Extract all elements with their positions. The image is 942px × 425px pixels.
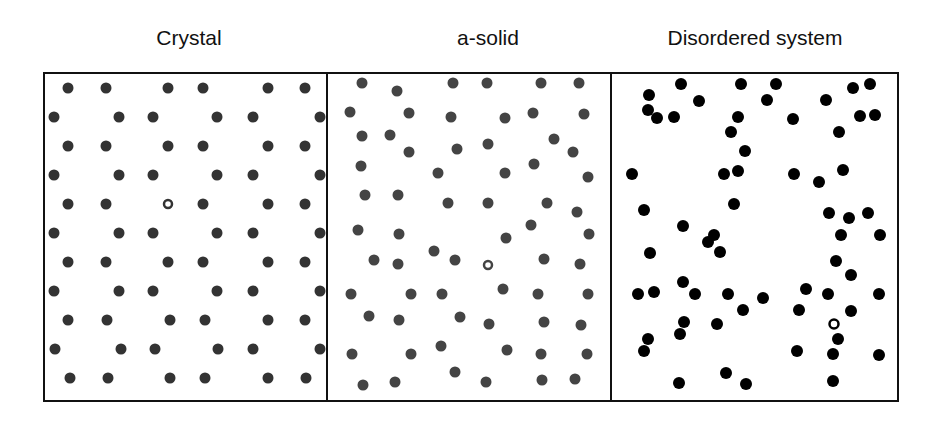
atom-dot bbox=[728, 198, 740, 210]
atom-dot bbox=[148, 170, 159, 181]
atom-dot bbox=[248, 344, 259, 355]
atom-dot bbox=[502, 345, 513, 356]
atom-dot bbox=[248, 228, 259, 239]
atom-dot bbox=[198, 83, 209, 94]
atom-dot bbox=[539, 254, 550, 265]
atom-dot bbox=[484, 319, 495, 330]
atom-dot bbox=[212, 228, 223, 239]
atom-dot bbox=[163, 141, 174, 152]
atom-dot bbox=[539, 317, 550, 328]
atom-dot bbox=[385, 130, 396, 141]
atom-dot bbox=[735, 78, 747, 90]
atom-dot bbox=[528, 108, 539, 119]
atom-dot bbox=[642, 333, 654, 345]
atom-dot bbox=[263, 83, 274, 94]
atom-dot bbox=[572, 207, 583, 218]
atom-dot bbox=[200, 315, 211, 326]
atom-dot bbox=[406, 289, 417, 300]
atom-dot bbox=[843, 212, 855, 224]
atom-dot bbox=[49, 228, 60, 239]
atom-dot bbox=[574, 78, 585, 89]
atom-dot bbox=[720, 367, 732, 379]
atom-dot bbox=[101, 83, 112, 94]
atom-dot bbox=[346, 289, 357, 300]
atom-dot bbox=[212, 170, 223, 181]
atom-dot bbox=[827, 348, 839, 360]
atom-dot bbox=[579, 109, 590, 120]
atom-dot bbox=[800, 283, 812, 295]
atom-dot bbox=[450, 255, 461, 266]
atom-dot bbox=[757, 292, 769, 304]
atom-dot bbox=[357, 131, 368, 142]
atom-dot bbox=[356, 161, 367, 172]
atom-dot bbox=[393, 259, 404, 270]
atom-dot bbox=[644, 247, 656, 259]
atom-dot bbox=[300, 141, 311, 152]
atom-dot bbox=[483, 139, 494, 150]
atom-dot bbox=[642, 104, 654, 116]
atom-dot bbox=[358, 380, 369, 391]
atom-dot bbox=[873, 349, 885, 361]
atom-dot bbox=[575, 259, 586, 270]
atom-dot bbox=[576, 320, 587, 331]
atom-dot bbox=[345, 107, 356, 118]
atom-dot bbox=[500, 168, 511, 179]
atom-dot bbox=[429, 246, 440, 257]
atom-dot bbox=[450, 367, 461, 378]
atom-dot bbox=[711, 318, 723, 330]
atom-dot bbox=[198, 141, 209, 152]
atom-dot bbox=[529, 159, 540, 170]
atom-dot bbox=[248, 170, 259, 181]
atom-dot bbox=[788, 168, 800, 180]
atom-dot bbox=[114, 112, 125, 123]
atom-dot bbox=[63, 315, 74, 326]
atom-dot bbox=[626, 168, 638, 180]
atom-dot bbox=[638, 204, 650, 216]
atom-dot bbox=[638, 345, 650, 357]
atom-dot bbox=[673, 377, 685, 389]
atom-dot bbox=[702, 236, 714, 248]
atom-dot bbox=[832, 333, 844, 345]
atom-dot bbox=[357, 78, 368, 89]
atom-dot bbox=[835, 229, 847, 241]
atom-dot bbox=[693, 95, 705, 107]
panel-crystal bbox=[49, 83, 326, 384]
atom-dot bbox=[315, 112, 326, 123]
atom-dot bbox=[822, 288, 834, 300]
outer-border bbox=[44, 73, 898, 401]
atom-dot bbox=[677, 220, 689, 232]
atom-dot bbox=[737, 304, 749, 316]
atom-dot bbox=[583, 172, 594, 183]
atom-dot bbox=[651, 112, 663, 124]
atom-dot bbox=[393, 190, 404, 201]
atom-dot bbox=[198, 199, 209, 210]
atom-dot bbox=[300, 83, 311, 94]
atom-dot bbox=[482, 78, 493, 89]
atom-dot bbox=[446, 112, 457, 123]
panel-a-solid bbox=[345, 78, 595, 391]
atom-dot bbox=[448, 78, 459, 89]
atom-dot bbox=[537, 375, 548, 386]
atom-dot bbox=[787, 113, 799, 125]
atom-dot bbox=[732, 111, 744, 123]
atom-dot bbox=[770, 78, 782, 90]
atom-dot bbox=[315, 170, 326, 181]
atom-dot bbox=[845, 305, 857, 317]
atom-dot bbox=[714, 246, 726, 258]
atom-dot bbox=[455, 312, 466, 323]
atom-dot bbox=[394, 229, 405, 240]
atom-dot bbox=[542, 198, 553, 209]
atom-dot bbox=[114, 228, 125, 239]
atom-dot bbox=[364, 311, 375, 322]
atom-dot bbox=[847, 82, 859, 94]
atom-dot bbox=[101, 257, 112, 268]
atom-dot bbox=[49, 170, 60, 181]
atom-dot bbox=[148, 286, 159, 297]
atom-dot bbox=[793, 304, 805, 316]
atom-dot bbox=[263, 315, 274, 326]
atom-dot bbox=[248, 112, 259, 123]
panel-disordered-system bbox=[626, 78, 886, 390]
atom-dot bbox=[433, 168, 444, 179]
atom-dot bbox=[437, 289, 448, 300]
atom-dot bbox=[392, 86, 403, 97]
